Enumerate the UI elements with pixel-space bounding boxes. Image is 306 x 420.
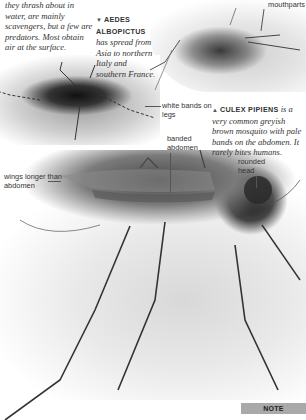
aedes-caption: ▼AEDES ALBOPICTUS has spread from Asia t… xyxy=(96,14,158,80)
aedes-caption-title: AEDES ALBOPICTUS xyxy=(96,15,146,36)
mouthparts-label: mouthparts xyxy=(268,1,305,10)
rounded-head-label: rounded head xyxy=(238,158,272,175)
white-bands-leader-line xyxy=(145,106,161,107)
intro-paragraph: they thrash about in water, are mainly s… xyxy=(5,0,95,53)
white-bands-label: white bands on legs xyxy=(162,102,212,119)
wings-leader-line xyxy=(48,181,61,182)
culex-caption-title: CULEX PIPIENS xyxy=(220,105,279,114)
down-triangle-icon: ▼ xyxy=(96,17,102,23)
note-tab: NOTE xyxy=(241,403,306,414)
banded-abdomen-label: banded abdomen xyxy=(167,135,207,152)
mosquito-photo-top-right xyxy=(150,0,306,92)
up-triangle-icon: ▲ xyxy=(212,107,218,113)
aedes-caption-body: has spread from Asia to northern Italy a… xyxy=(96,37,155,79)
book-page: they thrash about in water, are mainly s… xyxy=(0,0,306,420)
banded-abdomen-leader-line xyxy=(170,153,171,193)
rounded-head-leader-line xyxy=(256,176,257,188)
culex-caption: ▲CULEX PIPIENS is a very common greyish … xyxy=(212,104,306,158)
